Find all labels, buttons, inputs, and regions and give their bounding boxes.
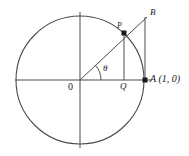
origin-label: 0 xyxy=(68,82,73,92)
point-a-label: A (1, 0) xyxy=(150,74,180,84)
point-marker-a xyxy=(143,78,148,83)
unit-circle-figure: 0 A (1, 0) B P Q θ xyxy=(0,0,189,156)
point-q-label: Q xyxy=(120,82,127,91)
point-p-label: P xyxy=(117,22,122,30)
angle-theta-label: θ xyxy=(103,64,107,73)
point-marker-p xyxy=(122,31,127,36)
point-b-label: B xyxy=(150,8,156,17)
terminal-ray-line xyxy=(80,17,147,80)
angle-arc-theta xyxy=(95,65,101,80)
